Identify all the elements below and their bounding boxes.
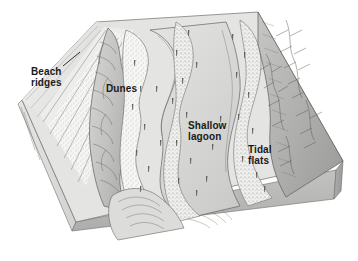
block-body <box>18 12 343 240</box>
block-diagram-figure: Beach ridges Dunes Shallow lagoon Tidal … <box>0 0 358 261</box>
block-right-face <box>334 161 343 199</box>
coastal-block-diagram <box>0 0 358 261</box>
block-top-surface <box>22 12 343 222</box>
